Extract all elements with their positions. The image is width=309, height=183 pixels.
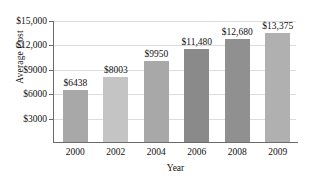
bar-value-label: $12,680 — [222, 27, 253, 37]
bar: $12,680 — [225, 39, 250, 142]
bar: $8003 — [103, 77, 128, 142]
y-tick-label: $12,000 — [16, 40, 47, 50]
y-tick-mark — [49, 119, 54, 120]
x-tick-label: 2000 — [66, 147, 85, 157]
bar-value-label: $11,480 — [181, 37, 212, 47]
y-axis-line — [53, 21, 54, 143]
gridline — [54, 119, 296, 120]
bar: $11,480 — [184, 49, 209, 142]
y-tick-mark — [49, 45, 54, 46]
x-tick-label: 2009 — [268, 147, 287, 157]
y-tick-label: $15,000 — [16, 16, 47, 26]
bar: $6438 — [63, 90, 88, 142]
y-tick-mark — [49, 94, 54, 95]
x-axis-title: Year — [53, 163, 298, 173]
gridline — [54, 94, 296, 95]
x-tick-label: 2004 — [147, 147, 166, 157]
y-tick-label: $9000 — [23, 65, 47, 75]
y-tick-mark — [49, 21, 54, 22]
gridline — [54, 70, 296, 71]
bar: $13,375 — [265, 33, 290, 142]
gridline — [54, 45, 296, 46]
plot-area: $3000$6000$9000$12,000$15,000 $6438$8003… — [53, 21, 296, 143]
bar-value-label: $9950 — [144, 49, 168, 59]
bar-value-label: $8003 — [104, 65, 128, 75]
y-tick-label: $6000 — [23, 89, 47, 99]
bar: $9950 — [144, 61, 169, 142]
bar-value-label: $6438 — [63, 78, 87, 88]
x-axis-line — [53, 142, 298, 143]
y-tick-mark — [49, 70, 54, 71]
y-tick-label: $3000 — [23, 114, 47, 124]
x-tick-label: 2002 — [106, 147, 125, 157]
x-tick-label: 2006 — [187, 147, 206, 157]
gridline — [54, 21, 296, 22]
x-tick-label: 2008 — [228, 147, 247, 157]
bar-chart-figure: Average Cost $3000$6000$9000$12,000$15,0… — [0, 0, 309, 183]
bar-value-label: $13,375 — [262, 21, 293, 31]
